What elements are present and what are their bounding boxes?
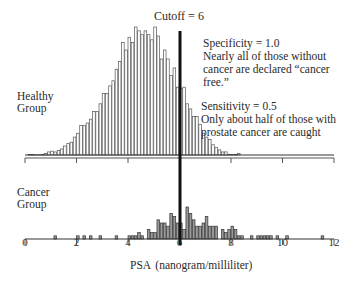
histogram-bar (205, 217, 208, 239)
histogram-bar (225, 233, 228, 239)
histogram-bar (125, 50, 128, 155)
histogram-bar (102, 94, 105, 155)
histogram-bar (141, 35, 144, 155)
specificity-title: Specificity = 1.0 (203, 37, 279, 50)
histogram-bar (112, 81, 115, 155)
histogram-bar (218, 150, 221, 155)
histogram-bar (151, 40, 154, 155)
sensitivity-title: Sensitivity = 0.5 (201, 100, 277, 113)
histogram-bar (212, 226, 215, 239)
histogram-bar (154, 233, 157, 239)
histogram-bar (86, 123, 89, 155)
cancer-group-label-2: Group (17, 198, 46, 211)
x-tick-label: 6 (177, 236, 183, 248)
histogram-bar (202, 223, 205, 239)
histogram-bar (57, 151, 60, 155)
histogram-bar (170, 76, 173, 155)
histogram-bar (105, 94, 108, 155)
histogram-bar (189, 213, 192, 239)
sensitivity-text-2: prostate cancer are caught (201, 126, 321, 139)
histogram-bar (89, 119, 92, 155)
histogram-bar (80, 126, 83, 155)
histogram-bar (196, 226, 199, 239)
histogram-bar (64, 146, 67, 155)
histogram-bar (196, 117, 199, 155)
histogram-bar (60, 149, 63, 155)
specificity-text-3: free.” (203, 76, 229, 89)
histogram-bar (67, 143, 70, 155)
histogram-bar (96, 111, 99, 155)
histogram-bar (199, 226, 202, 239)
histogram-bar (138, 31, 141, 155)
histogram-bar (215, 226, 218, 239)
histogram-bar (192, 117, 195, 155)
healthy-group-label-2: Group (17, 102, 46, 115)
histogram-bar (189, 109, 192, 155)
histogram-bar (154, 27, 157, 155)
histogram-bar (215, 147, 218, 155)
histogram-bar (93, 111, 96, 155)
histogram-bar (73, 137, 76, 155)
histogram-bar (208, 140, 211, 155)
histogram-bar (144, 31, 147, 155)
histogram-bar (115, 69, 118, 155)
histogram-bar (173, 68, 176, 155)
histogram-bar (205, 137, 208, 155)
histogram-bar (70, 142, 73, 155)
histogram-bar (147, 229, 150, 239)
histogram-bar (170, 213, 173, 239)
histogram-bar (167, 226, 170, 239)
sensitivity-text-1: Only about half of those with (201, 113, 336, 126)
histogram-bar (122, 42, 125, 155)
histogram-bar (208, 226, 211, 239)
histogram-bar (163, 223, 166, 239)
histogram-bar (221, 229, 224, 239)
histogram-bar (160, 223, 163, 239)
x-axis-label: PSA (nanogram/milliliter) (130, 259, 252, 272)
histogram-bar (183, 229, 186, 239)
histogram-bar (128, 37, 131, 155)
histogram-bar (186, 104, 189, 155)
histogram-bar (77, 133, 80, 155)
x-tick-label: 8 (228, 236, 234, 248)
cancer-group-histogram (54, 207, 324, 239)
specificity-text-1: Nearly all of those without (203, 50, 326, 63)
histogram-bar (83, 126, 86, 155)
histogram-bar (138, 233, 141, 239)
histogram-bar (186, 207, 189, 239)
histogram-bar (192, 220, 195, 239)
histogram-bar (167, 59, 170, 155)
histogram-bar (183, 87, 186, 155)
histogram-bar (157, 36, 160, 155)
x-tick-label: 0 (22, 236, 28, 248)
histogram-bar (131, 42, 134, 155)
histogram-bar (212, 145, 215, 155)
x-tick-label: 12 (329, 236, 340, 248)
histogram-bar (147, 35, 150, 155)
histogram-bar (109, 86, 112, 155)
histogram-bar (160, 59, 163, 155)
histogram-bar (173, 217, 176, 239)
histogram-bar (134, 27, 137, 155)
histogram-bar (118, 62, 121, 155)
histogram-bar (163, 50, 166, 155)
histogram-bar (99, 104, 102, 155)
x-tick-label: 4 (125, 236, 131, 248)
histogram-bar (234, 229, 237, 239)
x-tick-label: 2 (74, 236, 80, 248)
cutoff-label: Cutoff = 6 (154, 10, 204, 23)
histogram-bar (157, 220, 160, 239)
histogram-bar (51, 151, 54, 155)
histogram-bar (151, 233, 154, 239)
x-tick-label: 10 (277, 236, 288, 248)
specificity-text-2: cancer are declared “cancer (203, 63, 330, 76)
